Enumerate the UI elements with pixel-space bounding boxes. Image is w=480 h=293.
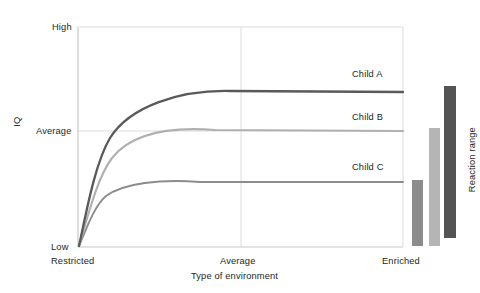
y-tick-average: Average bbox=[36, 127, 72, 136]
x-tick-enriched: Enriched bbox=[382, 257, 420, 266]
series-label-child-a: Child A bbox=[352, 70, 383, 79]
x-tick-restricted: Restricted bbox=[51, 257, 94, 266]
reaction-range-bar-child-a bbox=[444, 86, 456, 238]
reaction-range-bar-child-b bbox=[429, 128, 440, 246]
y-axis-title: IQ bbox=[13, 102, 22, 142]
series-label-child-b: Child B bbox=[352, 113, 383, 122]
y-tick-low: Low bbox=[51, 243, 69, 252]
y-tick-high: High bbox=[52, 23, 72, 32]
x-axis-title: Type of environment bbox=[191, 272, 278, 281]
reaction-range-figure: High Average Low Restricted Average Enri… bbox=[0, 0, 480, 293]
x-tick-average: Average bbox=[220, 257, 256, 266]
reaction-range-bar-child-c bbox=[412, 180, 423, 246]
reaction-range-title: Reaction range bbox=[468, 117, 477, 203]
chart-canvas bbox=[0, 0, 480, 293]
series-label-child-c: Child C bbox=[352, 163, 384, 172]
